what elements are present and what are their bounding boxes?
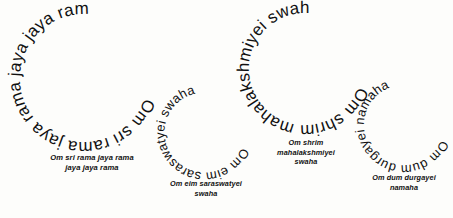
caption-saraswatyei: Om eim saraswatyei swaha [145, 179, 267, 198]
caption-sri-rama: Om sri rama jaya rama jaya jaya rama [6, 153, 178, 173]
circular-text-sri-rama: Om sri rama jaya rama jaya jaya rama [8, 2, 160, 154]
mantra-sheet: Om sri rama jaya rama jaya jaya rama Om … [0, 0, 453, 218]
caption-mahalakshmiyei: Om shrim mahalakshmiyei swaha [250, 138, 362, 167]
caption-durgayei: Om dum durgayei namaha [348, 173, 453, 192]
circular-text-durgayei: Om dum durgayei namaha [356, 77, 452, 173]
ring-text-sri-rama: Om sri rama jaya rama jaya jaya rama [3, 0, 159, 157]
svg-text:Om sri rama jaya rama jaya jay: Om sri rama jaya rama jaya jaya rama [3, 0, 159, 157]
svg-text:Om shrim mahalakshmiyei swaha: Om shrim mahalakshmiyei swaha [233, 0, 372, 140]
ring-text-mahalakshmiyei: Om shrim mahalakshmiyei swaha [233, 0, 372, 140]
circular-text-mahalakshmiyei: Om shrim mahalakshmiyei swaha [238, 2, 372, 136]
svg-text:Om dum durgayei namaha: Om dum durgayei namaha [352, 76, 452, 177]
ring-text-durgayei: Om dum durgayei namaha [352, 76, 452, 177]
